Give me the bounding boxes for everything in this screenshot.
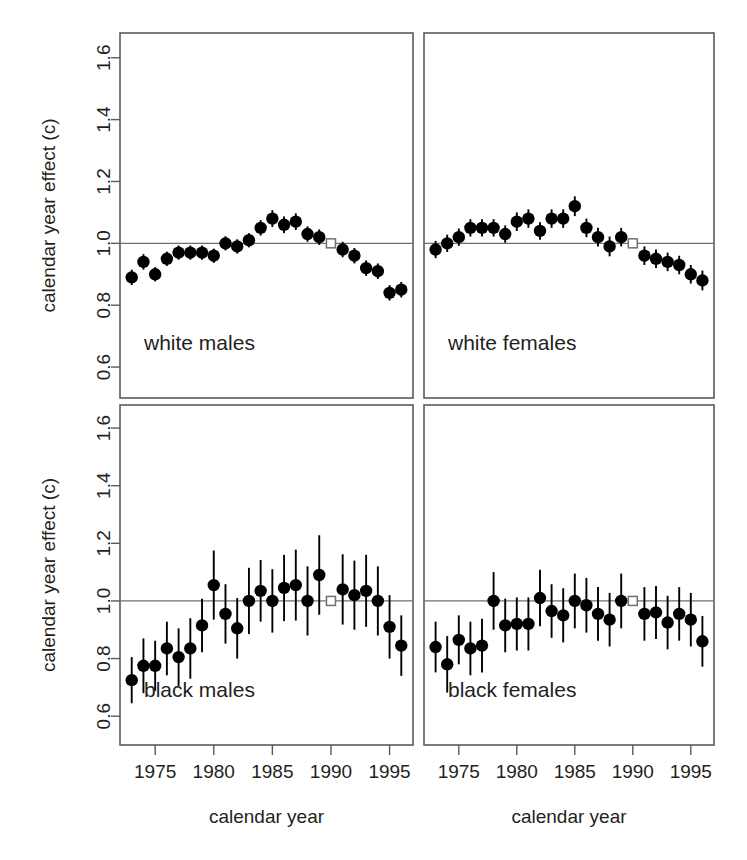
x-tick-label-black-females-4: 1995 bbox=[670, 761, 712, 782]
panel-label-white-females: white females bbox=[447, 331, 576, 354]
data-point-black-females-5 bbox=[487, 595, 499, 607]
data-point-white-females-22 bbox=[685, 268, 697, 280]
data-point-white-females-0 bbox=[429, 243, 441, 255]
data-point-white-females-18 bbox=[638, 250, 650, 262]
y-axis-title-white-males: calendar year effect (c) bbox=[38, 119, 59, 313]
data-point-white-females-8 bbox=[522, 212, 534, 224]
data-point-white-females-21 bbox=[673, 259, 685, 271]
data-point-white-males-1 bbox=[137, 256, 149, 268]
data-point-black-males-22 bbox=[383, 621, 395, 633]
y-tick-label-black-males-4: 1.4 bbox=[94, 472, 115, 499]
y-tick-label-white-males-3: 1.2 bbox=[94, 168, 115, 194]
data-point-white-females-10 bbox=[545, 212, 557, 224]
data-point-white-females-7 bbox=[511, 215, 523, 227]
data-point-black-females-4 bbox=[476, 639, 488, 651]
data-point-white-females-14 bbox=[592, 231, 604, 243]
multi-panel-scatter-chart: 0.60.81.01.21.41.6calendar year effect (… bbox=[0, 0, 747, 860]
data-point-black-females-22 bbox=[685, 613, 697, 625]
x-axis-title-black-females: calendar year bbox=[511, 806, 627, 827]
data-point-white-males-7 bbox=[208, 250, 220, 262]
data-point-white-males-19 bbox=[348, 250, 360, 262]
data-point-black-males-6 bbox=[196, 619, 208, 631]
data-point-white-males-3 bbox=[161, 253, 173, 265]
data-point-white-females-13 bbox=[580, 222, 592, 234]
data-point-black-males-18 bbox=[336, 583, 348, 595]
y-tick-label-black-males-2: 1.0 bbox=[94, 588, 115, 614]
data-point-black-males-10 bbox=[243, 595, 255, 607]
data-point-black-males-2 bbox=[149, 660, 161, 672]
y-axis-title-black-males: calendar year effect (c) bbox=[38, 478, 59, 672]
data-point-black-males-7 bbox=[208, 579, 220, 591]
x-axis-title-black-males: calendar year bbox=[209, 806, 325, 827]
data-point-black-males-23 bbox=[395, 639, 407, 651]
data-point-white-females-4 bbox=[476, 222, 488, 234]
data-point-black-males-8 bbox=[219, 608, 231, 620]
data-point-black-males-21 bbox=[372, 595, 384, 607]
data-point-black-females-1 bbox=[441, 658, 453, 670]
data-point-white-males-0 bbox=[126, 271, 138, 283]
data-point-black-males-15 bbox=[301, 595, 313, 607]
data-point-white-males-5 bbox=[184, 246, 196, 258]
x-tick-label-black-males-4: 1995 bbox=[368, 761, 410, 782]
y-tick-label-white-males-0: 0.6 bbox=[94, 354, 115, 380]
data-point-black-males-1 bbox=[137, 660, 149, 672]
panel-label-white-males: white males bbox=[143, 331, 255, 354]
data-point-black-males-9 bbox=[231, 622, 243, 634]
data-point-black-females-8 bbox=[522, 618, 534, 630]
panel-black-females: 19751980198519901995calendar yearblack f… bbox=[424, 405, 714, 827]
data-point-white-females-11 bbox=[557, 212, 569, 224]
data-point-white-females-5 bbox=[487, 222, 499, 234]
data-point-white-males-14 bbox=[290, 215, 302, 227]
y-tick-label-black-males-0: 0.6 bbox=[94, 703, 115, 729]
y-tick-label-white-males-1: 0.8 bbox=[94, 292, 115, 318]
data-point-black-females-6 bbox=[499, 619, 511, 631]
reference-marker-black-females bbox=[628, 596, 637, 605]
y-tick-label-white-males-5: 1.6 bbox=[94, 45, 115, 71]
x-tick-label-black-females-2: 1985 bbox=[554, 761, 596, 782]
x-tick-label-black-males-2: 1985 bbox=[251, 761, 293, 782]
data-point-black-females-2 bbox=[453, 634, 465, 646]
data-point-black-males-13 bbox=[278, 582, 290, 594]
data-point-white-males-4 bbox=[172, 246, 184, 258]
reference-marker-white-males bbox=[326, 239, 335, 248]
data-point-white-females-6 bbox=[499, 228, 511, 240]
data-point-black-females-9 bbox=[534, 592, 546, 604]
y-tick-label-black-males-5: 1.6 bbox=[94, 415, 115, 441]
data-point-black-males-4 bbox=[172, 651, 184, 663]
y-tick-label-white-males-2: 1.0 bbox=[94, 230, 115, 256]
data-point-black-females-20 bbox=[661, 616, 673, 628]
data-point-black-females-18 bbox=[638, 608, 650, 620]
data-point-white-females-1 bbox=[441, 237, 453, 249]
data-point-black-females-15 bbox=[603, 613, 615, 625]
data-point-white-males-21 bbox=[372, 265, 384, 277]
data-point-black-males-14 bbox=[290, 579, 302, 591]
data-point-white-females-3 bbox=[464, 222, 476, 234]
panel-label-black-females: black females bbox=[448, 678, 576, 701]
data-point-black-males-3 bbox=[161, 642, 173, 654]
data-point-white-males-18 bbox=[336, 243, 348, 255]
x-tick-label-black-males-3: 1990 bbox=[310, 761, 352, 782]
data-point-black-females-0 bbox=[429, 641, 441, 653]
data-point-black-males-19 bbox=[348, 589, 360, 601]
data-point-white-males-20 bbox=[360, 262, 372, 274]
data-point-white-males-23 bbox=[395, 284, 407, 296]
x-tick-label-black-females-1: 1980 bbox=[496, 761, 538, 782]
data-point-black-males-20 bbox=[360, 585, 372, 597]
data-point-black-females-3 bbox=[464, 642, 476, 654]
data-point-white-males-12 bbox=[266, 212, 278, 224]
data-point-black-females-23 bbox=[696, 635, 708, 647]
panel-white-females: white females bbox=[424, 33, 714, 398]
data-point-white-males-2 bbox=[149, 268, 161, 280]
x-tick-label-black-males-0: 1975 bbox=[134, 761, 176, 782]
data-point-white-females-23 bbox=[696, 274, 708, 286]
panel-white-males: 0.60.81.01.21.41.6calendar year effect (… bbox=[38, 33, 414, 398]
data-point-white-males-6 bbox=[196, 246, 208, 258]
data-point-black-males-5 bbox=[184, 642, 196, 654]
data-point-black-females-16 bbox=[615, 595, 627, 607]
data-point-white-females-12 bbox=[569, 200, 581, 212]
y-tick-label-black-males-1: 0.8 bbox=[94, 645, 115, 671]
data-point-black-females-7 bbox=[511, 618, 523, 630]
data-point-black-females-10 bbox=[545, 605, 557, 617]
reference-marker-black-males bbox=[326, 596, 335, 605]
data-point-black-males-0 bbox=[126, 674, 138, 686]
